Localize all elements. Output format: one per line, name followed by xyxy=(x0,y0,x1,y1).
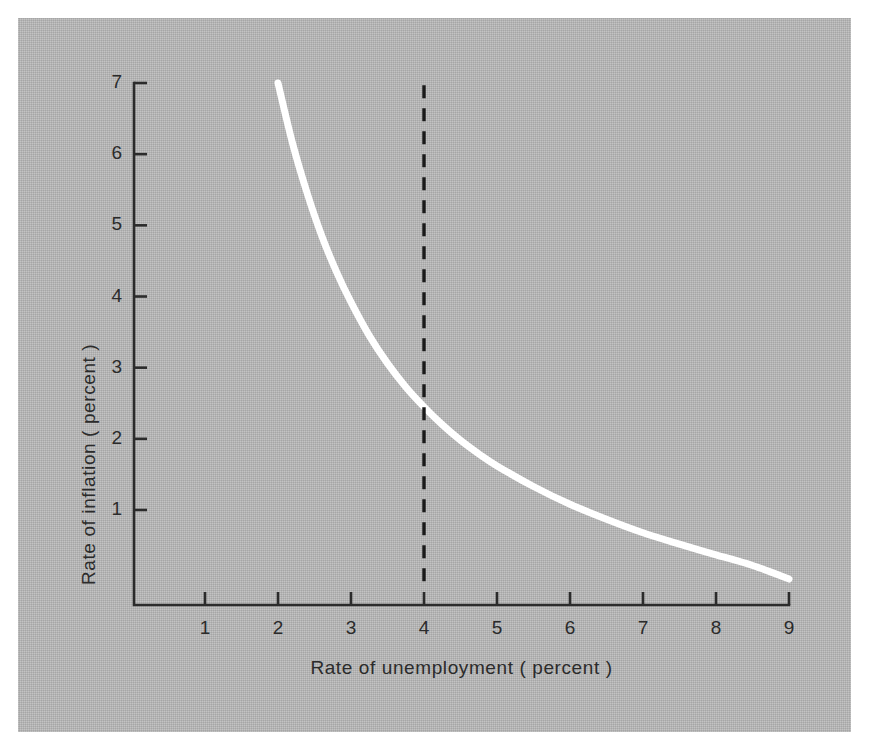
x-tick-label: 3 xyxy=(331,617,371,639)
x-tick-label: 6 xyxy=(550,617,590,639)
y-tick-label: 7 xyxy=(90,71,122,93)
y-tick-label: 6 xyxy=(90,142,122,164)
x-tick-label: 7 xyxy=(623,617,663,639)
x-tick-label: 8 xyxy=(696,617,736,639)
y-tick-label: 5 xyxy=(90,213,122,235)
x-tick-label: 5 xyxy=(477,617,517,639)
x-tick-label: 4 xyxy=(404,617,444,639)
y-axis-title: Rate of inflation ( percent ) xyxy=(78,344,100,585)
x-tick-label: 9 xyxy=(769,617,809,639)
x-axis-title: Rate of unemployment ( percent ) xyxy=(0,657,870,679)
figure-container: 123456789 1234567 Rate of unemployment (… xyxy=(0,0,870,749)
x-tick-label: 2 xyxy=(258,617,298,639)
x-tick-label: 1 xyxy=(185,617,225,639)
y-tick-label: 4 xyxy=(90,285,122,307)
